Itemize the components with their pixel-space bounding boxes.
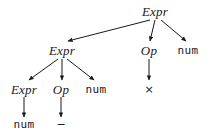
- tree-edge: [67, 59, 94, 80]
- tree-node-operator-n7: ×: [144, 84, 153, 95]
- tree-node-nonterminal-n0: Expr: [142, 5, 168, 18]
- tree-node-terminal-n6: num: [86, 84, 107, 95]
- tree-node-nonterminal-n1: Expr: [49, 44, 75, 57]
- parse-tree-diagram: ExprExprOpnumExprOpnum×num−: [0, 0, 211, 135]
- tree-node-terminal-n3: num: [178, 45, 199, 56]
- tree-node-nonterminal-n4: Expr: [11, 83, 37, 96]
- tree-edge: [29, 59, 58, 80]
- tree-edge: [150, 20, 155, 41]
- tree-node-nonterminal-n5: Op: [53, 83, 69, 96]
- tree-edges-layer: [0, 0, 211, 135]
- edge-group: [24, 20, 186, 117]
- tree-edge: [68, 20, 150, 41]
- tree-node-operator-n9: −: [56, 119, 65, 130]
- tree-node-terminal-n8: num: [14, 119, 35, 130]
- tree-node-nonterminal-n2: Op: [141, 44, 157, 57]
- tree-edge: [161, 20, 186, 41]
